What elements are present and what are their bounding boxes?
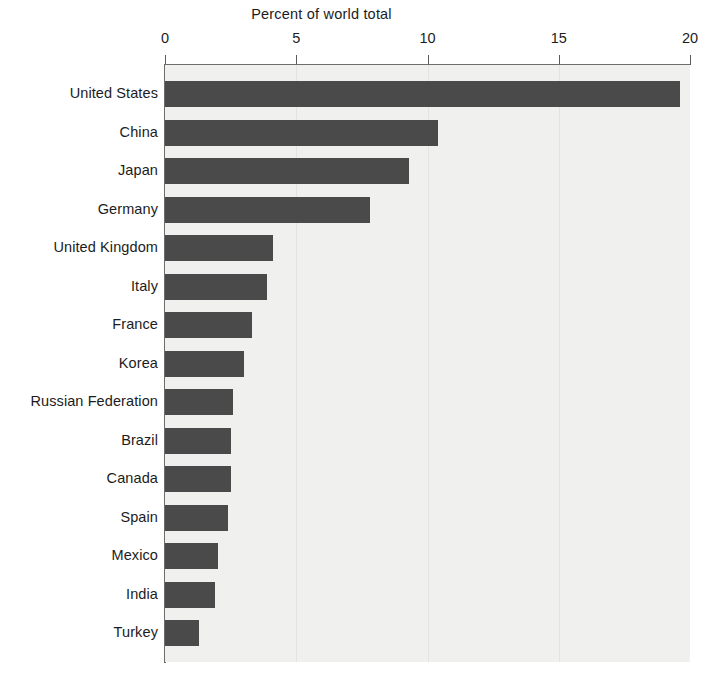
bar bbox=[165, 120, 438, 146]
x-tick-label-0: 0 bbox=[161, 30, 169, 46]
bar bbox=[165, 505, 228, 531]
category-label: Canada bbox=[107, 465, 158, 491]
category-label: France bbox=[112, 311, 158, 337]
bar-chart-figure: Percent of world total 05101520 United S… bbox=[0, 0, 703, 677]
chart-axis-title-text: Percent of world total bbox=[251, 6, 392, 22]
chart-axis-title: Percent of world total bbox=[0, 6, 703, 22]
x-tick-label-15: 15 bbox=[551, 30, 567, 46]
bar bbox=[165, 389, 233, 415]
bar bbox=[165, 351, 244, 377]
bar bbox=[165, 543, 218, 569]
category-label: Turkey bbox=[114, 619, 158, 645]
category-label: China bbox=[120, 119, 158, 145]
category-label: Japan bbox=[118, 157, 158, 183]
plot-area bbox=[165, 64, 690, 662]
bar bbox=[165, 197, 370, 223]
bar bbox=[165, 582, 215, 608]
category-label: United Kingdom bbox=[53, 234, 158, 260]
category-label: Spain bbox=[120, 504, 158, 530]
bar bbox=[165, 274, 267, 300]
bar bbox=[165, 235, 273, 261]
bars-layer bbox=[165, 65, 690, 662]
bar bbox=[165, 428, 231, 454]
x-tick-mark-20 bbox=[690, 55, 691, 65]
category-label: Brazil bbox=[121, 427, 158, 453]
category-label: United States bbox=[70, 80, 158, 106]
category-label: Germany bbox=[98, 196, 158, 222]
x-axis-tick-labels: 05101520 bbox=[0, 30, 703, 50]
category-label: Russian Federation bbox=[30, 388, 158, 414]
bar bbox=[165, 620, 199, 646]
category-label: Italy bbox=[131, 273, 158, 299]
bar bbox=[165, 158, 409, 184]
x-tick-label-10: 10 bbox=[419, 30, 435, 46]
category-axis-labels: United StatesChinaJapanGermanyUnited Kin… bbox=[0, 64, 158, 662]
x-tick-label-20: 20 bbox=[682, 30, 698, 46]
category-label: India bbox=[126, 581, 158, 607]
bar bbox=[165, 466, 231, 492]
category-label: Korea bbox=[119, 350, 158, 376]
category-label: Mexico bbox=[111, 542, 158, 568]
bar bbox=[165, 81, 680, 107]
x-tick-label-5: 5 bbox=[292, 30, 300, 46]
bar bbox=[165, 312, 252, 338]
